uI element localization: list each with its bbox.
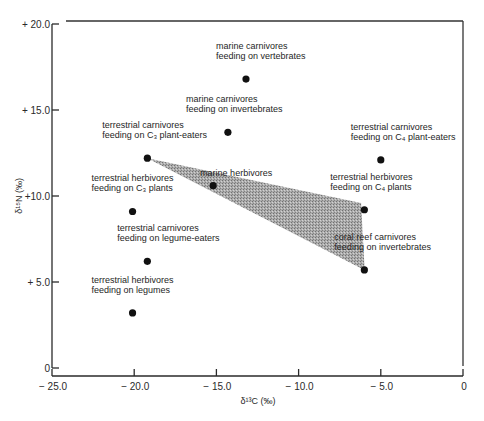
- point-label: feeding on C₄ plants: [330, 182, 412, 192]
- point-label: terrestrial carnivores: [117, 223, 199, 233]
- x-axis: − 25.0− 20.0− 15.0− 10.0− 5.00: [39, 369, 467, 392]
- point-label: feeding on invertebrates: [186, 104, 283, 114]
- point-marker: [361, 266, 368, 273]
- point-marker: [361, 206, 368, 213]
- point-label: feeding on C₄ plant-eaters: [351, 132, 456, 142]
- point-label: terrestrial herbivores: [330, 172, 413, 182]
- point-marker: [129, 208, 136, 215]
- y-tick-label: 0: [44, 363, 50, 374]
- point-label: feeding on vertebrates: [216, 51, 306, 61]
- point-label: terrestrial carnivores: [102, 120, 184, 130]
- point-label: feeding on invertebrates: [334, 242, 431, 252]
- isotope-scatter-chart: 0+ 5.0+10.0+ 15.0+ 20.0 − 25.0− 20.0− 15…: [0, 0, 484, 421]
- y-tick-label: + 20.0: [22, 19, 51, 30]
- data-point-marine-carnivores-vertebrates: marine carnivoresfeeding on vertebrates: [216, 41, 306, 83]
- point-marker: [144, 155, 151, 162]
- point-marker: [129, 309, 136, 316]
- x-axis-title: δ¹³C (‰): [241, 396, 276, 406]
- y-tick-label: +10.0: [25, 191, 51, 202]
- point-label: feeding on C₃ plant-eaters: [102, 130, 207, 140]
- x-tick-label: − 15.0: [203, 381, 232, 392]
- x-tick-label: − 25.0: [39, 381, 68, 392]
- point-label: feeding on C₃ plants: [92, 183, 174, 193]
- point-label: terrestrial herbivores: [92, 275, 175, 285]
- y-axis-title: δ¹⁵N (‰): [14, 178, 24, 214]
- point-label: marine carnivores: [216, 41, 288, 51]
- point-label: terrestrial carnivores: [351, 122, 433, 132]
- point-marker: [377, 156, 384, 163]
- point-marker: [224, 129, 231, 136]
- point-marker: [144, 258, 151, 265]
- point-label: coral reef carnivores: [334, 232, 416, 242]
- x-tick-label: − 20.0: [121, 381, 150, 392]
- y-tick-label: + 5.0: [27, 277, 50, 288]
- data-point-terrestrial-herbivores-legumes: terrestrial herbivoresfeeding on legumes: [92, 275, 175, 317]
- data-point-terrestrial-herbivores-c3: terrestrial herbivoresfeeding on C₃ plan…: [92, 173, 175, 215]
- point-marker: [210, 182, 217, 189]
- point-label: feeding on legume-eaters: [117, 233, 220, 243]
- x-tick-label: − 5.0: [371, 381, 394, 392]
- data-point-terrestrial-carnivores-legume-eaters: terrestrial carnivoresfeeding on legume-…: [117, 223, 220, 265]
- y-tick-label: + 15.0: [22, 105, 51, 116]
- point-marker: [242, 75, 249, 82]
- y-axis: 0+ 5.0+10.0+ 15.0+ 20.0: [22, 19, 59, 374]
- point-label: marine herbivores: [200, 168, 273, 178]
- point-label: marine carnivores: [186, 94, 258, 104]
- data-point-terrestrial-carnivores-c3: terrestrial carnivoresfeeding on C₃ plan…: [102, 120, 207, 162]
- point-label: terrestrial herbivores: [92, 173, 175, 183]
- data-points: marine carnivoresfeeding on vertebratesm…: [92, 41, 456, 317]
- x-tick-label: − 10.0: [286, 381, 315, 392]
- data-point-terrestrial-carnivores-c4: terrestrial carnivoresfeeding on C₄ plan…: [351, 122, 456, 164]
- point-label: feeding on legumes: [92, 285, 171, 295]
- x-tick-label: 0: [461, 381, 467, 392]
